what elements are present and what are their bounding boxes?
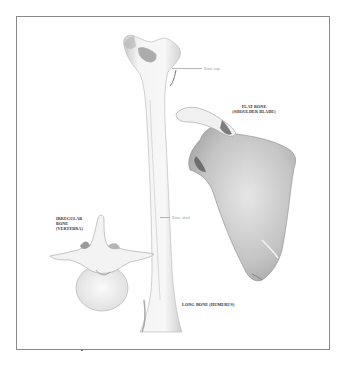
bones-illustration xyxy=(0,0,351,365)
flat-bone-label-line2: (SHOULDER BLADE) xyxy=(224,109,284,114)
bone-cap-leader-line xyxy=(172,68,202,69)
irregular-bone-label-line3: (VERTEBRA) xyxy=(56,226,83,231)
frame-tick-mark xyxy=(81,349,83,351)
humerus-illustration xyxy=(124,35,182,332)
bone-shaft-leader-line xyxy=(160,217,170,218)
irregular-bone-label: IRREGULAR BONE (VERTEBRA) xyxy=(56,216,83,231)
flat-bone-label: FLAT BONE (SHOULDER BLADE) xyxy=(224,104,284,114)
bone-cap-label: Bone cap xyxy=(204,66,220,71)
long-bone-label: LONG BONE (HUMERUS) xyxy=(182,302,234,307)
bone-shaft-label: Bone shaft xyxy=(172,215,190,220)
scapula-illustration xyxy=(176,107,296,281)
